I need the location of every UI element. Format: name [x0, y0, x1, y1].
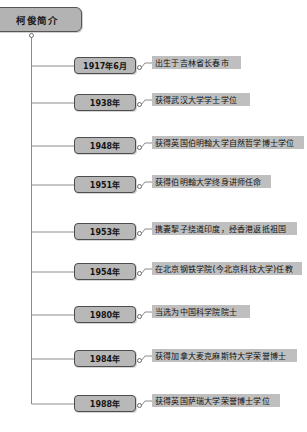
description-node-label: 获得英国伯明翰大学自然哲学博士学位	[155, 137, 294, 148]
entry-collapse-handle[interactable]	[137, 358, 142, 363]
date-node-label: 1951年	[90, 179, 120, 190]
entry-collapse-handle[interactable]	[137, 184, 142, 189]
description-node[interactable]: 获得武汉大学学士学位	[152, 93, 250, 106]
date-node[interactable]: 1951年	[74, 176, 136, 193]
description-node-label: 获得伯明翰大学终身讲师任命	[155, 176, 262, 187]
date-node-label: 1988年	[90, 398, 120, 409]
date-node-label: 1917年6月	[83, 60, 127, 71]
description-node[interactable]: 当选为中国科学院院士	[152, 305, 250, 318]
description-node[interactable]: 在北京钢铁学院(今北京科技大学)任教	[152, 262, 302, 275]
date-node-label: 1984年	[90, 353, 120, 364]
root-node-label: 柯俊简介	[16, 13, 58, 27]
description-node[interactable]: 获得伯明翰大学终身讲师任命	[152, 175, 271, 188]
description-node-label: 获得英国萨瑞大学荣誉博士学位	[155, 395, 270, 406]
description-node[interactable]: 获得英国伯明翰大学自然哲学博士学位	[152, 136, 304, 149]
entry-collapse-handle[interactable]	[137, 314, 142, 319]
entry-collapse-handle[interactable]	[137, 102, 142, 107]
date-node[interactable]: 1980年	[74, 306, 136, 323]
root-node[interactable]: 柯俊简介	[0, 7, 82, 32]
date-node-label: 1980年	[90, 309, 120, 320]
date-node-label: 1948年	[90, 140, 120, 151]
entry-collapse-handle[interactable]	[137, 65, 142, 70]
root-collapse-handle[interactable]	[29, 33, 34, 38]
description-node[interactable]: 出生于吉林省长春市	[152, 56, 241, 69]
diagram-canvas: 柯俊简介 1917年6月 出生于吉林省长春市 1938年 获得武汉大学学士学位 …	[0, 0, 307, 432]
description-node[interactable]: 携妻挈子绕道印度，经香港返抵祖国	[152, 222, 297, 235]
date-node-label: 1938年	[90, 97, 120, 108]
description-node-label: 获得加拿大麦克麻斯特大学荣誉博士	[155, 350, 286, 361]
date-node-label: 1954年	[90, 266, 120, 277]
entry-collapse-handle[interactable]	[137, 231, 142, 236]
date-node[interactable]: 1938年	[74, 94, 136, 111]
entry-collapse-handle[interactable]	[137, 403, 142, 408]
date-node[interactable]: 1984年	[74, 350, 136, 367]
description-node-label: 携妻挈子绕道印度，经香港返抵祖国	[155, 223, 286, 234]
description-node-label: 获得武汉大学学士学位	[155, 94, 237, 105]
description-node-label: 在北京钢铁学院(今北京科技大学)任教	[155, 263, 293, 274]
description-node[interactable]: 获得英国萨瑞大学荣誉博士学位	[152, 394, 280, 407]
date-node[interactable]: 1917年6月	[74, 57, 136, 74]
date-node[interactable]: 1954年	[74, 263, 136, 280]
date-node[interactable]: 1953年	[74, 223, 136, 240]
description-node-label: 当选为中国科学院院士	[155, 306, 237, 317]
entry-collapse-handle[interactable]	[137, 145, 142, 150]
description-node[interactable]: 获得加拿大麦克麻斯特大学荣誉博士	[152, 349, 297, 362]
date-node[interactable]: 1948年	[74, 137, 136, 154]
entry-collapse-handle[interactable]	[137, 271, 142, 276]
date-node-label: 1953年	[90, 226, 120, 237]
description-node-label: 出生于吉林省长春市	[155, 57, 229, 68]
date-node[interactable]: 1988年	[74, 395, 136, 412]
